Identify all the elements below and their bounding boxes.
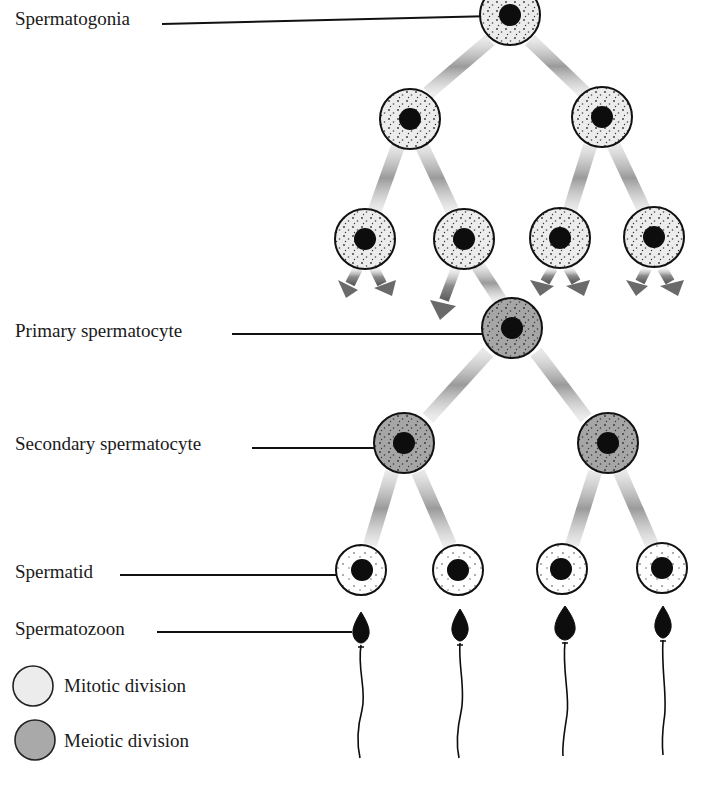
arrow-down-right-icon xyxy=(660,268,684,296)
arrow-down-right-icon xyxy=(566,268,590,296)
spermatid-cell xyxy=(433,545,483,595)
spermatozoon xyxy=(353,612,369,758)
spermatogonium-cell xyxy=(335,209,395,269)
spermatozoon xyxy=(452,609,468,758)
label-spermatogonia: Spermatogonia xyxy=(15,8,130,30)
spermatogonium-cell xyxy=(434,209,494,269)
label-spermatozoon: Spermatozoon xyxy=(15,618,125,640)
spermatogonium-cell xyxy=(380,89,440,149)
spermatogenesis-diagram xyxy=(0,0,710,786)
spermatid-cell xyxy=(336,545,386,595)
legend-label-mitotic: Mitotic division xyxy=(64,675,186,697)
label-spermatid: Spermatid xyxy=(15,561,93,583)
arrow-down-left-icon xyxy=(338,268,358,298)
spermatid-cell xyxy=(637,543,687,593)
spermatogonium-cell xyxy=(530,208,590,268)
arrow-down-left-icon xyxy=(626,268,648,296)
primary-spermatocyte-cell xyxy=(482,298,542,358)
label-primary-spermatocyte: Primary spermatocyte xyxy=(15,320,182,342)
spermatozoon xyxy=(655,606,671,755)
spermatogonium-cell xyxy=(572,87,632,147)
secondary-spermatocyte-cell xyxy=(578,413,638,473)
secondary-spermatocyte-cell xyxy=(374,413,434,473)
arrow-down-right-icon xyxy=(374,268,396,296)
spermatozoon xyxy=(555,606,575,756)
legend-label-meiotic: Meiotic division xyxy=(64,730,189,752)
label-secondary-spermatocyte: Secondary spermatocyte xyxy=(15,433,201,455)
arrow-down-left-icon xyxy=(430,268,456,320)
spermatid-cell xyxy=(537,544,587,594)
legend-swatch-mitotic xyxy=(13,666,53,706)
spermatogonium-cell xyxy=(480,0,540,45)
legend-swatch-meiotic xyxy=(15,720,55,760)
spermatogonium-cell xyxy=(624,207,684,267)
arrow-down-left-icon xyxy=(530,268,554,296)
